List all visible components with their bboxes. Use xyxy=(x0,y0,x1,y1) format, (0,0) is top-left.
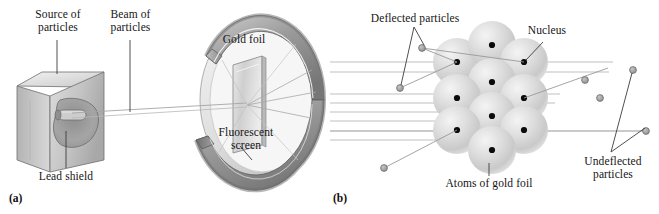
leader-deflected-a xyxy=(414,27,424,45)
panel-a-tag: (a) xyxy=(9,192,22,204)
leader-deflected-b xyxy=(401,27,414,85)
gold-atom-cluster xyxy=(433,21,548,174)
label-nucleus: Nucleus xyxy=(521,24,573,37)
deflected-particle xyxy=(397,85,404,92)
undeflected-particle-markers xyxy=(630,67,650,135)
label-undeflected-particles: Undeflected particles xyxy=(578,155,648,180)
label-gold-foil: Gold foil xyxy=(211,33,277,46)
deflected-particle xyxy=(381,165,388,172)
undeflected-particle xyxy=(630,67,637,74)
lead-shield-cube xyxy=(17,72,104,172)
nucleus-dot xyxy=(521,127,527,133)
label-atoms-of-gold-foil: Atoms of gold foil xyxy=(436,177,542,190)
nucleus-dot xyxy=(489,113,495,119)
nucleus-dot xyxy=(489,42,495,48)
nucleus-dot xyxy=(489,79,495,85)
label-lead-shield: Lead shield xyxy=(18,170,114,183)
deflected-particle xyxy=(419,45,426,52)
nucleus-dot xyxy=(454,95,460,101)
deflected-particle xyxy=(582,77,589,84)
label-deflected-particles: Deflected particles xyxy=(360,12,470,25)
rutherford-experiment-figure: Source of particles Beam of particles Le… xyxy=(0,0,659,214)
particle-source-capsule xyxy=(55,110,86,120)
label-source-of-particles: Source of particles xyxy=(18,8,98,33)
nucleus-dot xyxy=(489,147,495,153)
deflected-particle xyxy=(597,95,604,102)
leader-undeflected-a xyxy=(611,73,632,152)
label-fluorescent-screen: Fluorescent screen xyxy=(203,126,289,151)
label-beam-of-particles: Beam of particles xyxy=(93,8,168,33)
panel-b-tag: (b) xyxy=(333,192,347,204)
